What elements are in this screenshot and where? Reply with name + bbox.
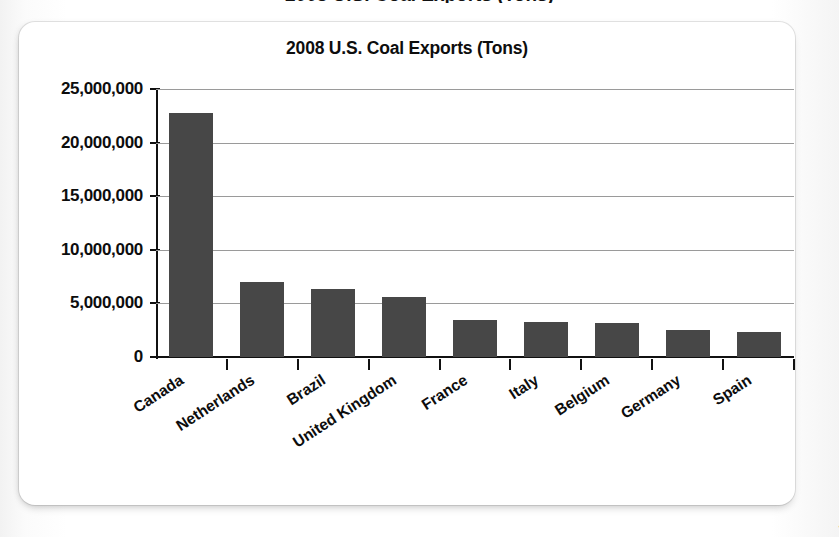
plot-area (156, 89, 794, 357)
clipped-page-heading: 2008 U.S. Coal Exports (Tons) (0, 0, 839, 3)
x-axis-ticks (156, 359, 794, 371)
x-axis-label-wrap: United Kingdom (264, 371, 400, 468)
x-axis-label-wrap: Brazil (193, 371, 329, 468)
x-axis-tick (509, 359, 511, 370)
bar (595, 323, 639, 357)
chart-card: 2008 U.S. Coal Exports (Tons) 25,000,000… (19, 22, 795, 505)
x-axis-label-wrap: Spain (619, 371, 755, 468)
y-axis-tick-label: 10,000,000 (61, 240, 143, 260)
x-axis-tick-label: Spain (709, 371, 754, 408)
y-axis-tick-label: 0 (134, 347, 143, 367)
gridline (156, 89, 794, 90)
x-axis-tick-label: Brazil (284, 371, 329, 408)
x-axis-tick (722, 359, 724, 370)
x-axis-tick (368, 359, 370, 370)
x-axis-tick (226, 359, 228, 370)
bar (453, 320, 497, 357)
x-axis-tick-label: Belgium (551, 371, 612, 419)
bar (240, 282, 284, 357)
bar (524, 322, 568, 357)
x-axis-labels: CanadaNetherlandsBrazilUnited KingdomFra… (156, 371, 794, 491)
y-axis-tick-label: 5,000,000 (70, 293, 143, 313)
x-axis-tick (439, 359, 441, 370)
x-axis-label-wrap: France (335, 371, 471, 468)
y-axis-tick-label: 20,000,000 (61, 133, 143, 153)
x-axis-label-wrap: Germany (548, 371, 684, 468)
x-axis-label-wrap: Belgium (477, 371, 613, 468)
x-axis-tick (793, 359, 795, 370)
y-axis-tick-label: 25,000,000 (61, 79, 143, 99)
x-axis-tick-label: Germany (617, 371, 683, 422)
bar (382, 297, 426, 357)
x-axis-tick-label: Italy (506, 371, 541, 402)
x-axis-tick-label: France (418, 371, 470, 413)
x-axis-tick (297, 359, 299, 370)
bar (169, 113, 213, 357)
gridline (156, 143, 794, 144)
gridline (156, 196, 794, 197)
bar (311, 289, 355, 357)
clipped-heading-text: 2008 U.S. Coal Exports (Tons) (0, 0, 839, 3)
x-axis-label-wrap: Italy (406, 371, 542, 468)
x-axis-tick (580, 359, 582, 370)
bar (737, 332, 781, 357)
bar (666, 330, 710, 357)
y-axis-tick-label: 15,000,000 (61, 186, 143, 206)
x-axis-tick (651, 359, 653, 370)
gridline (156, 250, 794, 251)
